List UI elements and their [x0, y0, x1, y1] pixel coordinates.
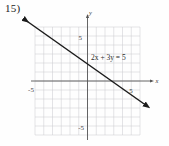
equation-annotation-label: 2x + 3y = 5 [91, 53, 126, 62]
y-axis-tick-label-positive-five: 5 [79, 34, 83, 42]
graph-canvas: -5 5 5 -5 x y 2x + 3y = 5 [0, 0, 169, 146]
worksheet-problem-panel: 15) [0, 0, 169, 146]
coordinate-graph-figure: -5 5 5 -5 x y 2x + 3y = 5 [0, 0, 169, 146]
y-axis-name-label: y [88, 9, 92, 16]
y-axis-tick-label-negative-five: -5 [78, 124, 84, 132]
x-axis-name-label: x [155, 77, 159, 84]
x-axis-tick-label-negative-five: -5 [28, 86, 34, 94]
